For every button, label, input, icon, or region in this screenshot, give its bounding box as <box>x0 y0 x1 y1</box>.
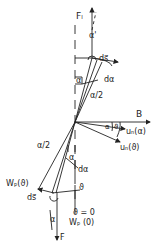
un-theta-label: uₙ(ϑ) <box>120 143 139 152</box>
alpha-bottom-label: α <box>50 215 55 224</box>
theta-zero-label: ϑ = 0 <box>73 208 95 217</box>
wp-theta-arrow <box>38 189 54 193</box>
dalpha-bottom-label: dα <box>78 165 88 174</box>
wp-theta-label: Wₚ(ϑ) <box>6 179 29 188</box>
half-alpha-top-label: α/2 <box>90 91 103 100</box>
ds-bottom-label: ds⃗ <box>27 193 36 202</box>
force-top-label: Fₗ <box>76 11 83 21</box>
alpha-top-label: α <box>76 76 81 85</box>
magnetic-force-diagram: Fₗ α' ds⃗ α dα α/2 B α ϑ uₙ(α) uₙ(ϑ) α/2… <box>0 0 160 248</box>
alpha-right-label: α <box>105 123 110 131</box>
dalpha-top-label: dα <box>104 75 114 84</box>
theta-bottom-label: ϑ <box>79 183 84 192</box>
alpha-prime-label: α' <box>89 31 96 40</box>
wp-zero-label: Wₚ (0) <box>69 218 94 227</box>
un-alpha-label: uₙ(α) <box>126 127 146 136</box>
force-bottom-label: F <box>60 233 65 242</box>
ds-top-label: ds⃗ <box>99 54 108 63</box>
half-alpha-bottom-label: α/2 <box>37 141 50 150</box>
b-label: B <box>136 109 142 119</box>
theta-right-label: ϑ <box>114 123 118 131</box>
alpha-mid-label: α <box>69 153 74 162</box>
